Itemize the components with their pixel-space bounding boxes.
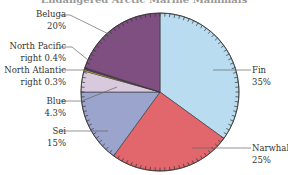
- label-beluga: Beluga 20%: [36, 8, 66, 32]
- label-blue: Blue 4.3%: [44, 95, 66, 119]
- label-name: Sei: [47, 125, 66, 137]
- label-fin: Fin 35%: [252, 64, 271, 88]
- label-sei: Sei 15%: [47, 125, 66, 149]
- label-name: North Atlantic: [4, 64, 66, 76]
- label-value: 15%: [47, 137, 66, 149]
- label-value: right 0.4%: [9, 52, 66, 64]
- label-name: North Pacific: [9, 40, 66, 52]
- label-name: Narwhal: [252, 142, 288, 154]
- label-name: Beluga: [36, 8, 66, 20]
- label-value: 4.3%: [44, 107, 66, 119]
- label-value: 25%: [252, 154, 288, 166]
- label-north-atlantic-right: North Atlantic right 0.3%: [4, 64, 66, 88]
- label-value: 20%: [36, 20, 66, 32]
- label-name: Fin: [252, 64, 271, 76]
- label-north-pacific-right: North Pacific right 0.4%: [9, 40, 66, 64]
- label-value: right 0.3%: [4, 76, 66, 88]
- label-value: 35%: [252, 76, 271, 88]
- label-narwhal: Narwhal 25%: [252, 142, 288, 166]
- label-name: Blue: [44, 95, 66, 107]
